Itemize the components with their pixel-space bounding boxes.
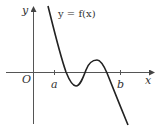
origin-label: O [22,73,31,86]
y-axis-label: y [21,4,29,17]
x-axis-label: x [145,74,152,87]
tick-b-label: b [117,78,124,91]
function-curve [48,6,128,125]
tick-a-label: a [51,78,58,91]
function-label: y = f(x) [57,8,96,19]
function-graph: y x O a b y = f(x) [0,0,160,132]
